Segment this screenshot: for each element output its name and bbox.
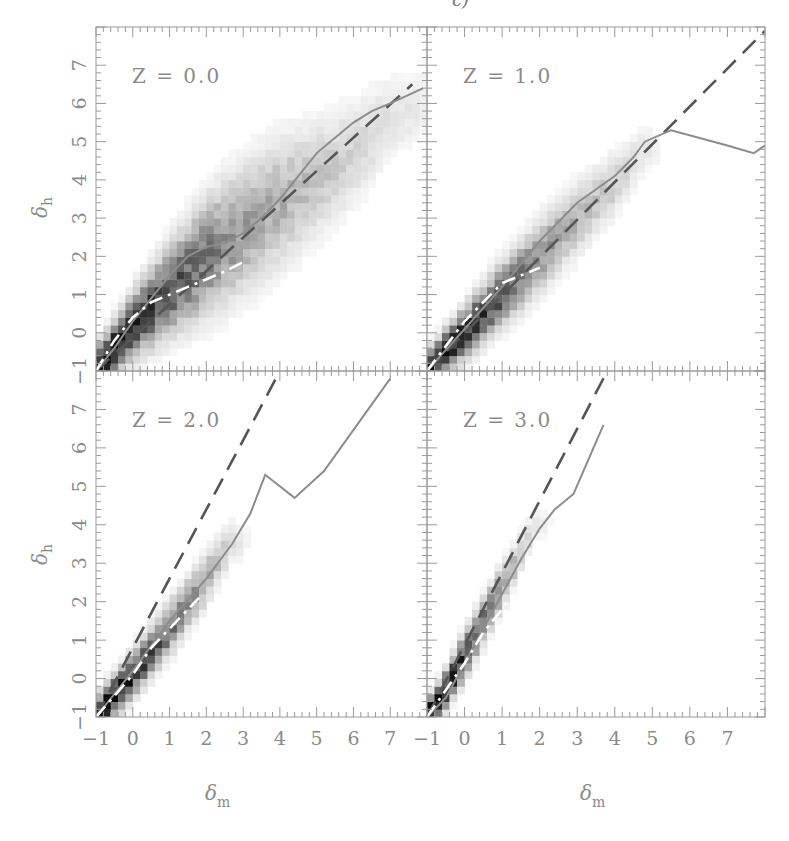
density-cell	[221, 233, 229, 241]
density-cell	[148, 348, 156, 356]
density-cell	[162, 648, 170, 656]
density-cell	[111, 310, 119, 318]
density-cell	[495, 325, 503, 333]
density-cell	[295, 233, 303, 241]
y-tick-label: 5	[68, 136, 90, 148]
density-cell	[280, 126, 288, 134]
density-cell	[339, 211, 347, 219]
density-cell	[630, 180, 638, 188]
density-cell	[547, 264, 555, 272]
density-cell	[221, 264, 229, 272]
density-cell	[280, 218, 288, 226]
density-cell	[645, 157, 653, 165]
density-cell	[243, 279, 251, 287]
density-cell	[177, 279, 185, 287]
density-cell	[118, 295, 126, 303]
density-cell	[162, 602, 170, 610]
density-cell	[251, 264, 259, 272]
density-cell	[192, 188, 200, 196]
density-cell	[140, 287, 148, 295]
density-cell	[472, 295, 480, 303]
density-cell	[457, 686, 465, 694]
density-cell	[510, 325, 518, 333]
density-cell	[243, 525, 251, 533]
density-cell	[192, 579, 200, 587]
panel-top-left: −101234567Z = 0.0	[68, 27, 427, 385]
density-cell	[346, 203, 354, 211]
density-cell	[420, 81, 428, 89]
density-cell	[258, 256, 266, 264]
density-cell	[140, 363, 148, 371]
density-cell	[206, 233, 214, 241]
density-cell	[420, 126, 428, 134]
density-cell	[111, 702, 119, 710]
density-cell	[177, 272, 185, 280]
density-cell	[398, 126, 406, 134]
density-cell	[140, 679, 148, 687]
density-cell	[450, 318, 458, 326]
density-cell	[280, 172, 288, 180]
density-cell	[645, 165, 653, 173]
density-cell	[309, 249, 317, 257]
density-cell	[517, 287, 525, 295]
density-cell	[96, 333, 104, 341]
density-cell	[487, 256, 495, 264]
density-cell	[295, 119, 303, 127]
x-tick-label: 4	[609, 727, 621, 749]
density-cell	[547, 211, 555, 219]
density-cell	[547, 203, 555, 211]
density-cell	[177, 632, 185, 640]
density-cell	[184, 195, 192, 203]
density-cell	[265, 226, 273, 234]
density-cell	[214, 540, 222, 548]
density-cell	[615, 142, 623, 150]
density-cell	[435, 340, 443, 348]
density-cell	[162, 348, 170, 356]
density-cell	[265, 279, 273, 287]
density-cell	[162, 594, 170, 602]
density-cell	[517, 318, 525, 326]
density-cell	[228, 295, 236, 303]
density-cell	[540, 218, 548, 226]
density-cell	[555, 249, 563, 257]
density-cell	[236, 226, 244, 234]
density-cell	[258, 172, 266, 180]
density-cell	[295, 249, 303, 257]
density-cell	[162, 340, 170, 348]
density-cell	[287, 256, 295, 264]
density-cell	[376, 88, 384, 96]
density-cell	[412, 111, 420, 119]
density-cell	[317, 134, 325, 142]
density-cell	[280, 142, 288, 150]
density-cell	[502, 302, 510, 310]
density-cell	[170, 318, 178, 326]
density-cell	[331, 211, 339, 219]
density-cell	[353, 96, 361, 104]
density-cell	[309, 188, 317, 196]
density-cell	[495, 264, 503, 272]
density-cell	[525, 233, 533, 241]
density-cell	[502, 249, 510, 257]
density-cell	[361, 157, 369, 165]
panels-group: −101234567Z = 0.0Z = 1.0−101234567−10123…	[68, 27, 765, 749]
density-cell	[170, 648, 178, 656]
density-cell	[317, 195, 325, 203]
density-cell	[206, 556, 214, 564]
density-cell	[510, 302, 518, 310]
density-cell	[368, 88, 376, 96]
density-cell	[383, 119, 391, 127]
density-cell	[228, 157, 236, 165]
density-cell	[472, 663, 480, 671]
density-cell	[517, 295, 525, 303]
density-cell	[390, 126, 398, 134]
density-cell	[295, 126, 303, 134]
density-cell	[302, 126, 310, 134]
density-cell	[517, 310, 525, 318]
density-cell	[148, 617, 156, 625]
density-cell	[442, 709, 450, 717]
density-cell	[221, 295, 229, 303]
x-tick-label: 6	[684, 727, 696, 749]
y-axis-title-bottom: δh	[28, 544, 55, 565]
density-cell	[630, 142, 638, 150]
density-cell	[295, 264, 303, 272]
